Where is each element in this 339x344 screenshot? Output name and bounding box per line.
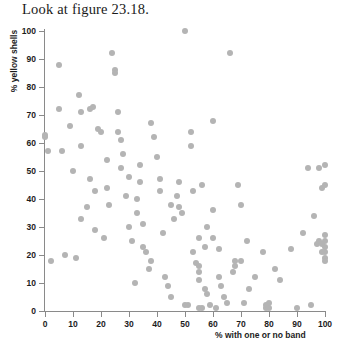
plot-data-area bbox=[45, 31, 325, 311]
x-tick-label: 10 bbox=[62, 319, 84, 329]
data-point bbox=[322, 182, 328, 188]
data-point bbox=[182, 28, 188, 34]
y-tick bbox=[39, 31, 44, 32]
x-tick-label: 50 bbox=[174, 319, 196, 329]
data-point bbox=[210, 118, 216, 124]
data-point bbox=[224, 300, 230, 306]
x-tick bbox=[157, 312, 158, 317]
y-tick-label: 0 bbox=[14, 306, 36, 316]
data-point bbox=[196, 269, 202, 275]
data-point bbox=[241, 300, 247, 306]
y-tick-label: 60 bbox=[14, 138, 36, 148]
y-tick bbox=[39, 311, 44, 312]
data-point bbox=[244, 238, 250, 244]
data-point bbox=[115, 129, 121, 135]
data-point bbox=[115, 109, 121, 115]
x-tick bbox=[185, 312, 186, 317]
x-tick-label: 30 bbox=[118, 319, 140, 329]
data-point bbox=[62, 252, 68, 258]
data-point bbox=[126, 224, 132, 230]
data-point bbox=[132, 280, 138, 286]
data-point bbox=[90, 104, 96, 110]
x-tick-label: 70 bbox=[230, 319, 252, 329]
x-tick-label: 60 bbox=[202, 319, 224, 329]
x-tick-label: 0 bbox=[34, 319, 56, 329]
data-point bbox=[118, 137, 124, 143]
x-tick bbox=[73, 312, 74, 317]
x-tick bbox=[241, 312, 242, 317]
x-tick bbox=[325, 312, 326, 317]
y-tick-label: 70 bbox=[14, 110, 36, 120]
y-tick bbox=[39, 59, 44, 60]
y-tick-label: 10 bbox=[14, 278, 36, 288]
data-point bbox=[98, 129, 104, 135]
x-axis-title: % with one or no band bbox=[215, 330, 306, 340]
y-axis-title: % yellow shells bbox=[9, 11, 19, 111]
data-point bbox=[146, 266, 152, 272]
data-point bbox=[168, 202, 174, 208]
data-point bbox=[101, 235, 107, 241]
figure-page: Look at figure 23.18. 010203040506070809… bbox=[0, 0, 339, 344]
data-point bbox=[238, 258, 244, 264]
x-tick bbox=[213, 312, 214, 317]
data-point bbox=[168, 294, 174, 300]
y-tick-label: 20 bbox=[14, 250, 36, 260]
data-point bbox=[42, 132, 48, 138]
y-tick bbox=[39, 171, 44, 172]
data-point bbox=[230, 269, 236, 275]
data-point bbox=[129, 238, 135, 244]
x-tick-label: 40 bbox=[146, 319, 168, 329]
data-point bbox=[112, 70, 118, 76]
y-tick-label: 30 bbox=[14, 222, 36, 232]
data-point bbox=[322, 162, 328, 168]
x-tick-label: 80 bbox=[258, 319, 280, 329]
x-tick-label: 100 bbox=[314, 319, 336, 329]
data-point bbox=[104, 185, 110, 191]
x-tick bbox=[45, 312, 46, 317]
data-point bbox=[300, 230, 306, 236]
data-point bbox=[311, 213, 317, 219]
scatter-plot: 0102030405060708090100 01020304050607080… bbox=[0, 0, 339, 344]
data-point bbox=[202, 244, 208, 250]
x-tick bbox=[269, 312, 270, 317]
data-point bbox=[118, 165, 124, 171]
y-tick bbox=[39, 227, 44, 228]
data-point bbox=[213, 305, 219, 311]
data-point bbox=[157, 188, 163, 194]
x-tick bbox=[129, 312, 130, 317]
data-point bbox=[56, 62, 62, 68]
data-point bbox=[174, 193, 180, 199]
data-point bbox=[154, 154, 160, 160]
data-point bbox=[171, 216, 177, 222]
data-point bbox=[165, 283, 171, 289]
data-point bbox=[188, 129, 194, 135]
data-point bbox=[322, 258, 328, 264]
data-point bbox=[70, 168, 76, 174]
data-point bbox=[104, 157, 110, 163]
y-tick bbox=[39, 115, 44, 116]
y-tick bbox=[39, 143, 44, 144]
data-point bbox=[188, 143, 194, 149]
x-tick bbox=[297, 312, 298, 317]
y-tick-label: 50 bbox=[14, 166, 36, 176]
data-point bbox=[160, 230, 166, 236]
y-tick bbox=[39, 283, 44, 284]
y-tick bbox=[39, 199, 44, 200]
y-tick bbox=[39, 87, 44, 88]
x-tick-label: 90 bbox=[286, 319, 308, 329]
data-point bbox=[143, 249, 149, 255]
data-point bbox=[199, 305, 205, 311]
data-point bbox=[199, 182, 205, 188]
data-point bbox=[126, 174, 132, 180]
data-point bbox=[272, 266, 278, 272]
y-tick bbox=[39, 255, 44, 256]
x-tick-label: 20 bbox=[90, 319, 112, 329]
y-tick-label: 40 bbox=[14, 194, 36, 204]
data-point bbox=[73, 255, 79, 261]
x-tick bbox=[101, 312, 102, 317]
data-point bbox=[48, 258, 54, 264]
data-point bbox=[266, 300, 272, 306]
data-point bbox=[238, 202, 244, 208]
